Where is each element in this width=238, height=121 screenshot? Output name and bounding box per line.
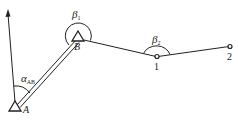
angle-beta2-arc — [144, 46, 171, 55]
traverse-diagram: A B 1 2 αAB β1 β2 — [0, 0, 238, 121]
angle-alpha-ab-arc — [14, 86, 31, 93]
label-point-2: 2 — [227, 51, 232, 62]
label-a: A — [22, 104, 30, 115]
label-b: B — [74, 41, 80, 52]
label-point-1: 1 — [154, 61, 159, 72]
traverse-point-1-icon — [155, 55, 159, 59]
label-beta2-subscript: 2 — [157, 40, 160, 46]
label-beta2: β2 — [151, 33, 160, 46]
label-alpha-ab-subscript: AB — [27, 79, 35, 85]
label-beta1-subscript: 1 — [77, 15, 80, 21]
traverse-point-2-icon — [228, 45, 232, 49]
control-point-b-icon — [72, 31, 84, 41]
north-arrow-icon — [6, 9, 16, 102]
label-beta1: β1 — [71, 8, 80, 21]
traverse-leg-b-1 — [84, 40, 156, 57]
label-alpha-ab: αAB — [21, 72, 35, 85]
